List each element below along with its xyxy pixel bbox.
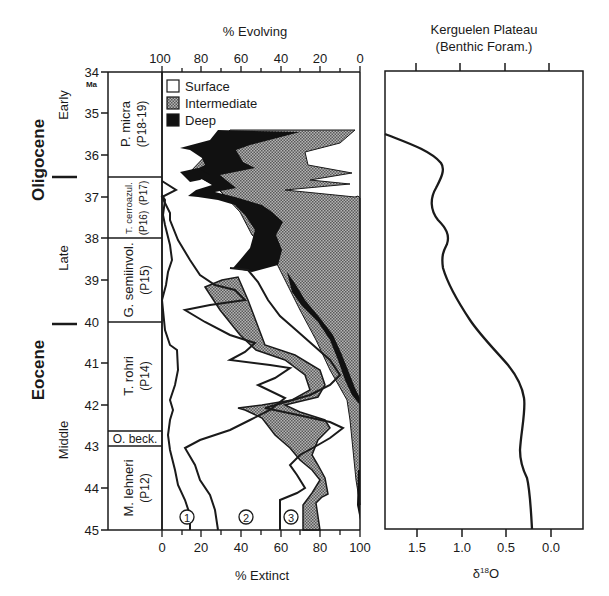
subepoch-early: Early xyxy=(56,90,71,120)
bottom-axis-labels: 0 20 40 60 80 100 xyxy=(158,540,370,555)
legend-swatch-deep xyxy=(167,114,179,126)
biozone-g-semiinvol-zone: (P15) xyxy=(138,265,152,294)
svg-text:45: 45 xyxy=(85,523,99,538)
svg-text:42: 42 xyxy=(85,398,99,413)
svg-text:1.0: 1.0 xyxy=(453,540,471,555)
bottom-axis-ticks xyxy=(162,530,360,537)
svg-text:1.5: 1.5 xyxy=(408,540,426,555)
biozone-t-rohri: T. rohri xyxy=(121,356,136,396)
legend-label-intermediate: Intermediate xyxy=(185,96,257,111)
chart-canvas: Oligocene Early Late Eocene Middle 34 35… xyxy=(0,0,609,596)
epoch-oligocene: Oligocene xyxy=(29,119,48,201)
right-top-ticks xyxy=(416,63,549,71)
biozone-m-lehneri-zone: (P12) xyxy=(138,473,152,502)
right-panel-subtitle: (Benthic Foram.) xyxy=(436,39,533,54)
svg-text:2: 2 xyxy=(243,512,249,524)
evolving-extinct-plot xyxy=(162,72,360,530)
age-tick-labels: 34 35 36 37 38 39 40 41 42 43 44 45 xyxy=(85,65,99,538)
svg-text:44: 44 xyxy=(85,481,99,496)
svg-text:41: 41 xyxy=(85,356,99,371)
right-panel-title: Kerguelen Plateau xyxy=(431,22,538,37)
subepoch-late: Late xyxy=(56,245,71,270)
svg-text:0.0: 0.0 xyxy=(542,540,560,555)
svg-text:0.5: 0.5 xyxy=(497,540,515,555)
biozone-p-micra: P. micra xyxy=(118,100,133,147)
svg-text:1: 1 xyxy=(184,512,190,524)
epoch-eocene: Eocene xyxy=(29,340,48,400)
right-axis-title: δ18O xyxy=(473,566,499,581)
svg-text:20: 20 xyxy=(313,51,327,66)
svg-text:35: 35 xyxy=(85,106,99,121)
svg-text:100: 100 xyxy=(149,51,171,66)
svg-text:36: 36 xyxy=(85,148,99,163)
svg-text:40: 40 xyxy=(85,315,99,330)
age-unit-label: Ma xyxy=(86,80,98,89)
legend-swatch-intermediate xyxy=(167,97,179,109)
svg-text:40: 40 xyxy=(274,51,288,66)
biozone-t-rohri-zone: (P14) xyxy=(138,361,152,390)
top-axis-title: % Evolving xyxy=(223,24,287,39)
svg-text:80: 80 xyxy=(313,540,327,555)
legend: Surface Intermediate Deep xyxy=(167,79,257,128)
legend-swatch-surface xyxy=(167,80,179,92)
biozone-t-cerroazul-zone: (P16) (P17) xyxy=(138,181,149,235)
svg-text:0: 0 xyxy=(356,51,363,66)
svg-text:100: 100 xyxy=(349,540,371,555)
svg-text:80: 80 xyxy=(194,51,208,66)
bottom-axis-title: % Extinct xyxy=(235,568,290,583)
curve-0-line xyxy=(162,195,190,530)
right-panel-frame xyxy=(385,71,583,529)
svg-text:43: 43 xyxy=(85,439,99,454)
biozone-m-lehneri: M. lehneri xyxy=(121,459,136,516)
svg-text:37: 37 xyxy=(85,190,99,205)
svg-text:20: 20 xyxy=(194,540,208,555)
top-axis-ticks xyxy=(162,66,360,72)
biozone-p-micra-zone: (P18-19) xyxy=(135,101,149,148)
svg-text:34: 34 xyxy=(85,65,99,80)
svg-text:39: 39 xyxy=(85,273,99,288)
right-bottom-labels: 1.5 1.0 0.5 0.0 xyxy=(408,540,560,555)
svg-text:0: 0 xyxy=(158,540,165,555)
svg-text:3: 3 xyxy=(288,512,294,524)
legend-label-surface: Surface xyxy=(185,79,230,94)
subepoch-middle: Middle xyxy=(56,421,71,459)
svg-text:40: 40 xyxy=(234,540,248,555)
right-bottom-ticks xyxy=(417,529,551,537)
svg-text:60: 60 xyxy=(234,51,248,66)
svg-text:38: 38 xyxy=(85,231,99,246)
legend-label-deep: Deep xyxy=(185,113,216,128)
biozone-g-semiinvol: G. semiinvol. xyxy=(121,242,136,317)
d18o-curve xyxy=(385,134,532,529)
svg-text:60: 60 xyxy=(274,540,288,555)
top-axis-labels: 100 80 60 40 20 0 xyxy=(149,51,363,66)
biozone-t-cerroazul: T. cerroazul. xyxy=(123,182,134,234)
biozone-o-beck: O. beck. xyxy=(113,432,158,446)
